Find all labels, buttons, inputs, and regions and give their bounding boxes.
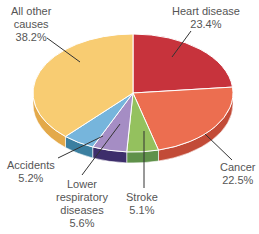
label-heart-disease: Heart disease23.4% bbox=[172, 5, 240, 31]
label-accidents: Accidents5.2% bbox=[7, 159, 55, 185]
label-all-other-causes: All othercauses38.2% bbox=[11, 5, 51, 44]
pie-slices bbox=[33, 34, 233, 152]
label-lower-respiratory: Lowerrespiratorydiseases5.6% bbox=[56, 178, 108, 230]
leader-line-1 bbox=[205, 134, 232, 160]
label-cancer: Cancer22.5% bbox=[220, 161, 255, 187]
label-stroke: Stroke5.1% bbox=[126, 191, 158, 217]
